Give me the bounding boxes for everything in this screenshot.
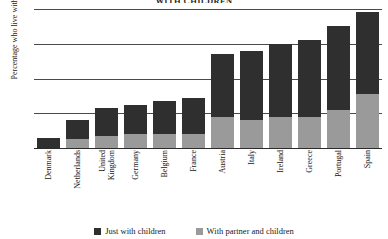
bar-segment-with-partner-and-children[interactable] bbox=[327, 110, 350, 148]
bar-segment-with-partner-and-children[interactable] bbox=[211, 117, 234, 148]
x-label-slot: Belgium bbox=[150, 150, 179, 208]
x-label-slot: Denmark bbox=[34, 150, 63, 208]
legend-item[interactable]: Just with children bbox=[94, 226, 165, 236]
chart-legend: Just with childrenWith partner and child… bbox=[0, 224, 388, 238]
x-label-slot: UnitedKingdom bbox=[92, 150, 121, 208]
bar-segment-just-with-children[interactable] bbox=[153, 101, 176, 134]
x-axis-tick-label: Germany bbox=[131, 150, 140, 180]
bar-slot bbox=[237, 9, 266, 148]
chart-figure: WITH CHILDREN Percentage who live with t… bbox=[0, 0, 388, 239]
bar-segment-with-partner-and-children[interactable] bbox=[240, 120, 263, 148]
legend-label: With partner and children bbox=[207, 226, 294, 236]
legend-item[interactable]: With partner and children bbox=[196, 226, 294, 236]
x-label-slot: Portugal bbox=[324, 150, 353, 208]
x-axis-tick-label: Denmark bbox=[44, 150, 53, 180]
stacked-bar[interactable] bbox=[327, 26, 350, 148]
stacked-bar[interactable] bbox=[240, 51, 263, 148]
stacked-bar[interactable] bbox=[211, 54, 234, 148]
bar-segment-just-with-children[interactable] bbox=[298, 40, 321, 116]
bar-segment-with-partner-and-children[interactable] bbox=[153, 134, 176, 148]
bar-segment-with-partner-and-children[interactable] bbox=[269, 117, 292, 148]
bar-segment-with-partner-and-children[interactable] bbox=[66, 139, 89, 148]
bar-segment-just-with-children[interactable] bbox=[327, 26, 350, 109]
bar-slot bbox=[92, 9, 121, 148]
stacked-bar[interactable] bbox=[95, 108, 118, 148]
bar-segment-with-partner-and-children[interactable] bbox=[356, 94, 379, 148]
x-label-slot: Austria bbox=[208, 150, 237, 208]
bar-slot bbox=[150, 9, 179, 148]
stacked-bar[interactable] bbox=[66, 120, 89, 148]
bar-series-container bbox=[34, 9, 382, 148]
bar-segment-just-with-children[interactable] bbox=[124, 105, 147, 135]
x-label-slot: Germany bbox=[121, 150, 150, 208]
bar-segment-just-with-children[interactable] bbox=[211, 54, 234, 117]
stacked-bar[interactable] bbox=[153, 101, 176, 148]
x-axis-tick-label: France bbox=[189, 150, 198, 172]
bar-segment-with-partner-and-children[interactable] bbox=[124, 134, 147, 148]
bar-slot bbox=[121, 9, 150, 148]
bar-slot bbox=[295, 9, 324, 148]
bar-slot bbox=[266, 9, 295, 148]
x-axis-tick-label: Greece bbox=[305, 150, 314, 173]
x-label-slot: France bbox=[179, 150, 208, 208]
stacked-bar[interactable] bbox=[298, 40, 321, 148]
stacked-bar[interactable] bbox=[37, 138, 60, 148]
bar-slot bbox=[34, 9, 63, 148]
bar-slot bbox=[324, 9, 353, 148]
bar-segment-just-with-children[interactable] bbox=[66, 120, 89, 139]
legend-label: Just with children bbox=[105, 226, 165, 236]
bar-slot bbox=[353, 9, 382, 148]
x-label-slot: Netherlands bbox=[63, 150, 92, 208]
bar-segment-with-partner-and-children[interactable] bbox=[182, 134, 205, 148]
bar-segment-just-with-children[interactable] bbox=[356, 12, 379, 94]
chart-title: WITH CHILDREN bbox=[0, 0, 388, 3]
bar-segment-with-partner-and-children[interactable] bbox=[95, 136, 118, 148]
x-axis-tick-label: Austria bbox=[218, 150, 227, 174]
x-label-slot: Greece bbox=[295, 150, 324, 208]
stacked-bar[interactable] bbox=[356, 12, 379, 148]
x-axis-tick-label: Italy bbox=[247, 150, 256, 165]
bar-segment-just-with-children[interactable] bbox=[269, 44, 292, 117]
legend-swatch-icon bbox=[94, 228, 101, 235]
x-axis-labels: DenmarkNetherlandsUnitedKingdomGermanyBe… bbox=[34, 150, 382, 208]
x-axis-tick-label: UnitedKingdom bbox=[98, 150, 115, 180]
bar-slot bbox=[208, 9, 237, 148]
y-axis-label-container: Percentage who live with their children bbox=[0, 0, 18, 160]
bar-segment-just-with-children[interactable] bbox=[95, 108, 118, 136]
bar-slot bbox=[179, 9, 208, 148]
x-axis-tick-label: Belgium bbox=[160, 150, 169, 178]
bar-segment-just-with-children[interactable] bbox=[240, 51, 263, 121]
x-label-slot: Spain bbox=[353, 150, 382, 208]
bar-slot bbox=[63, 9, 92, 148]
bar-segment-just-with-children[interactable] bbox=[37, 138, 60, 148]
x-axis-tick-label: Portugal bbox=[334, 150, 343, 177]
bar-segment-just-with-children[interactable] bbox=[182, 98, 205, 134]
x-label-slot: Ireland bbox=[266, 150, 295, 208]
y-axis-label: Percentage who live with their children bbox=[10, 0, 19, 91]
stacked-bar[interactable] bbox=[182, 98, 205, 148]
x-axis-tick-label: Ireland bbox=[276, 150, 285, 173]
x-axis-tick-label: Netherlands bbox=[73, 150, 82, 189]
legend-swatch-icon bbox=[196, 228, 203, 235]
stacked-bar[interactable] bbox=[269, 44, 292, 148]
stacked-bar[interactable] bbox=[124, 105, 147, 148]
bar-segment-with-partner-and-children[interactable] bbox=[298, 117, 321, 148]
x-label-slot: Italy bbox=[237, 150, 266, 208]
x-axis-tick-label: Spain bbox=[363, 150, 372, 168]
